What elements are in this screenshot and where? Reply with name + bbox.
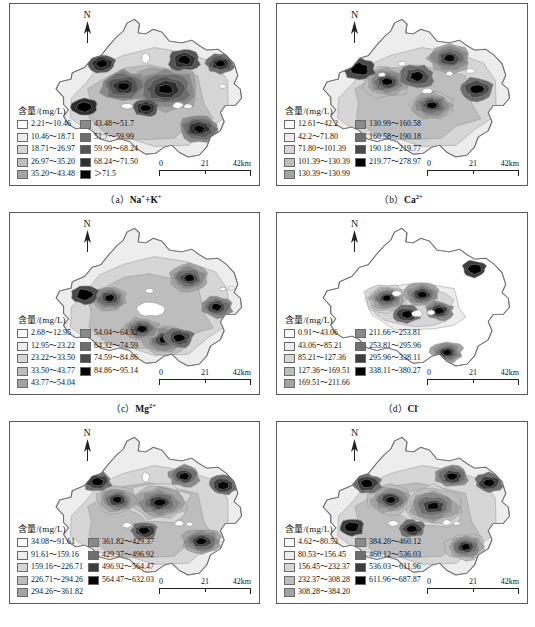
scale-bar-labels: 0 21 42km [159, 577, 251, 588]
legend-label: 0.91～43.06 [298, 329, 338, 337]
scale-max-label: 42km [501, 368, 519, 377]
legend-column-left: 12.61～42.242.2～71.8071.80～101.39101.39～1… [284, 119, 350, 180]
legend-item: 384.20～460.12 [355, 537, 421, 548]
legend-swatch [284, 576, 295, 585]
legend-label: 101.39～130.39 [298, 158, 350, 166]
legend-label: 35.20～43.48 [31, 170, 75, 178]
legend-swatch [17, 133, 28, 142]
legend-label: 91.61～159.16 [31, 551, 79, 559]
legend-swatch [284, 563, 295, 572]
legend-label: 74.59～84.86 [94, 354, 138, 362]
legend-item: 169.51～211.66 [284, 378, 350, 389]
legend-swatch [80, 329, 91, 338]
legend-label: 42.2～71.80 [298, 133, 338, 141]
legend-label: 611.96～687.87 [369, 576, 421, 584]
legend-swatch [355, 120, 366, 129]
legend-columns: 2.68～12.9512.95～23.2223.22～33.5033.50～43… [17, 328, 138, 389]
scale-min-label: 0 [427, 577, 431, 586]
legend-item: 64.32～74.59 [80, 341, 138, 352]
legend-title: 含量/(mg/L) [18, 525, 154, 534]
legend-swatch [355, 551, 366, 560]
figure-panel-grid: N 含量/(mg/L) 2.21～10.4610.46～18.7118.71～2… [0, 0, 535, 627]
legend-item: 91.61～159.16 [17, 550, 83, 561]
legend-swatch [88, 538, 99, 547]
scale-bar: 0 21 42km [427, 368, 519, 385]
legend-item: 35.20～43.48 [17, 169, 75, 180]
legend-columns: 34.08～91.6191.61～159.16159.16～226.71226.… [17, 537, 154, 598]
legend-label: 429.37～496.92 [102, 551, 154, 559]
legend-item: 2.68～12.95 [17, 328, 75, 339]
scale-max-label: 42km [233, 577, 251, 586]
legend-label: 43.77～54.04 [31, 379, 75, 387]
map-panel-a: N 含量/(mg/L) 2.21～10.4610.46～18.7118.71～2… [0, 0, 267, 209]
legend-swatch [88, 551, 99, 560]
legend-swatch [80, 367, 91, 376]
legend-label: 159.16～226.71 [31, 563, 83, 571]
legend-label: 496.92～564.47 [102, 563, 154, 571]
legend-swatch [80, 342, 91, 351]
legend-item: 43.06～85.21 [284, 341, 350, 352]
legend-label: 80.53～156.45 [298, 551, 346, 559]
legend-label: 64.32～74.59 [94, 342, 138, 350]
legend-swatch [80, 133, 91, 142]
legend-label: 156.45～232.37 [298, 563, 350, 571]
legend-column-right: 43.48～51.751.7～59.9959.99～68.2468.24～71.… [80, 119, 138, 180]
scale-bar-labels: 0 21 42km [427, 368, 519, 379]
map-panel-d: N 含量/(mg/L) 0.91～43.0643.06～85.2185.21～1… [267, 209, 535, 418]
legend-swatch [80, 145, 91, 154]
legend-item: 159.16～226.71 [17, 562, 83, 573]
legend-swatch [17, 342, 28, 351]
legend-swatch [284, 170, 295, 179]
legend-item: 54.04～64.32 [80, 328, 138, 339]
legend-label: 4.62～80.53 [298, 538, 338, 546]
legend-label: 10.46～18.71 [31, 133, 75, 141]
legend-columns: 2.21～10.4610.46～18.7118.71～26.9726.97～35… [17, 119, 138, 180]
legend-item: 536.03～611.96 [355, 562, 421, 573]
legend-swatch [80, 170, 91, 179]
legend-label: 68.24～71.50 [94, 158, 138, 166]
legend-item: 51.7～59.99 [80, 132, 138, 143]
legend-column-right: 54.04～64.3264.32～74.5974.59～84.8684.86～9… [80, 328, 138, 389]
legend-label: 84.86～95.14 [94, 367, 138, 375]
legend-column-left: 2.68～12.9512.95～23.2223.22～33.5033.50～43… [17, 328, 75, 389]
legend-label: 219.77～278.97 [369, 158, 421, 166]
legend-label: 43.06～85.21 [298, 342, 342, 350]
legend-swatch [80, 158, 91, 167]
scale-mid-label: 21 [201, 159, 209, 168]
legend-title: 含量/(mg/L) [285, 107, 421, 116]
panel-caption-b: （b）Ca2+ [267, 192, 535, 206]
legend-label: 361.82～429.37 [102, 538, 154, 546]
legend-item: 611.96～687.87 [355, 575, 421, 586]
legend-swatch [355, 354, 366, 363]
legend-label: 564.47～632.03 [102, 576, 154, 584]
legend-swatch [17, 563, 28, 572]
map-panel-e: N 含量/(mg/L) 34.08～91.6191.61～159.16159.1… [0, 418, 267, 627]
legend-label: 294.26～361.82 [31, 588, 83, 596]
caption-ion: Na++K+ [130, 195, 162, 205]
panel-caption-a: （a）Na++K+ [0, 192, 267, 206]
scale-bar: 0 21 42km [427, 577, 519, 594]
legend-label: 33.50～43.77 [31, 367, 75, 375]
scale-bar-labels: 0 21 42km [427, 159, 519, 170]
legend-title: 含量/(mg/L) [285, 525, 421, 534]
map-frame: N 含量/(mg/L) 2.68～12.9512.95～23.2223.22～3… [9, 212, 260, 395]
legend-item: 68.24～71.50 [80, 157, 138, 168]
legend-swatch [355, 576, 366, 585]
legend-column-right: 384.20～460.12460.12～536.03536.03～611.966… [355, 537, 421, 598]
legend-label: 85.21～127.36 [298, 354, 346, 362]
legend-label: 460.12～536.03 [369, 551, 421, 559]
legend: 含量/(mg/L) 4.62～80.5380.53～156.45156.45～2… [284, 525, 421, 598]
legend-swatch [355, 145, 366, 154]
legend-swatch [355, 133, 366, 142]
legend-item: 211.66～253.81 [355, 328, 421, 339]
legend-item: 84.86～95.14 [80, 366, 138, 377]
legend-item: 361.82～429.37 [88, 537, 154, 548]
legend-swatch [355, 538, 366, 547]
panel-caption-d: （d）Cl- [267, 401, 535, 415]
legend-item: 12.95～23.22 [17, 341, 75, 352]
legend-label: 232.37～308.28 [298, 576, 350, 584]
legend-item: 18.71～26.97 [17, 144, 75, 155]
legend-column-left: 34.08～91.6191.61～159.16159.16～226.71226.… [17, 537, 83, 598]
legend-item: 130.99～160.58 [355, 119, 421, 130]
legend-item: 232.37～308.28 [284, 575, 350, 586]
